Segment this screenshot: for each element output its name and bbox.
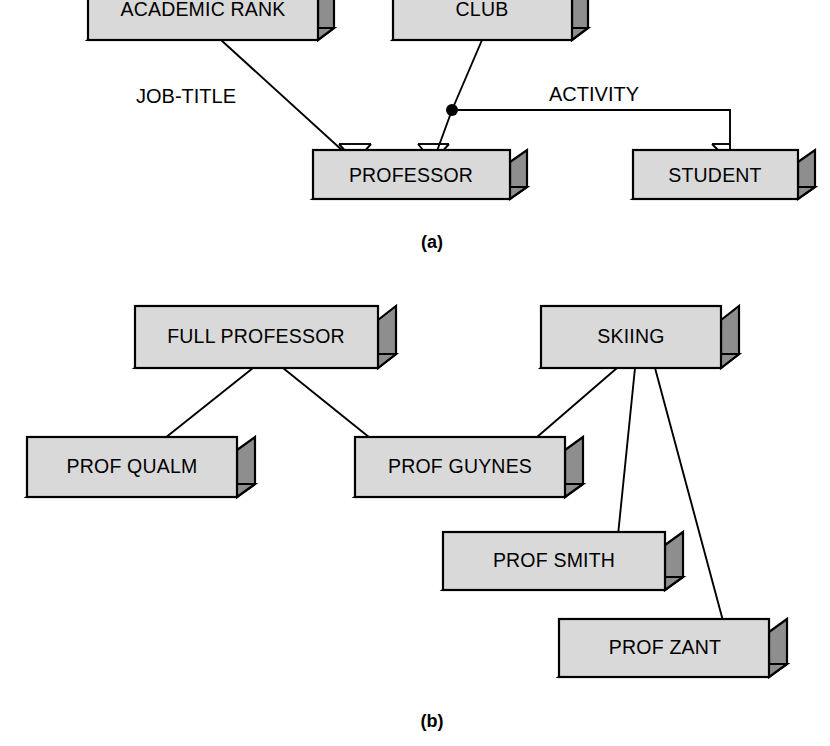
entity-box-prof-smith[interactable]: PROF SMITH xyxy=(443,532,683,590)
panel-a: JOB-TITLE ACTIVITY ACADEMIC RANK CLUB xyxy=(88,0,815,252)
prof-smith-label: PROF SMITH xyxy=(493,549,615,571)
link-skiing-to-prof-smith xyxy=(617,368,635,545)
entity-box-student[interactable]: STUDENT xyxy=(633,150,815,199)
activity-club-segment xyxy=(452,40,482,110)
prof-guynes-label: PROF GUYNES xyxy=(388,455,532,477)
academic-rank-label: ACADEMIC RANK xyxy=(120,0,285,20)
full-professor-label: FULL PROFESSOR xyxy=(167,325,345,347)
entity-box-skiing[interactable]: SKIING xyxy=(541,306,739,368)
entity-box-academic-rank[interactable]: ACADEMIC RANK xyxy=(88,0,334,40)
connector-skiing-prof-smith xyxy=(617,368,635,545)
entity-box-full-professor[interactable]: FULL PROFESSOR xyxy=(135,306,396,368)
panel-b: FULL PROFESSOR SKIING PROF QUALM xyxy=(27,306,787,731)
relationship-label-activity: ACTIVITY xyxy=(549,83,639,105)
activity-junction-dot xyxy=(446,104,458,116)
panel-b-caption: (b) xyxy=(421,711,444,731)
entity-box-prof-guynes[interactable]: PROF GUYNES xyxy=(355,437,583,497)
connector-job-title xyxy=(221,40,371,162)
entity-box-prof-zant[interactable]: PROF ZANT xyxy=(559,619,787,677)
link-skiing-to-prof-zant xyxy=(655,368,726,632)
skiing-label: SKIING xyxy=(597,325,664,347)
entity-box-professor[interactable]: PROFESSOR xyxy=(313,150,527,199)
figure-canvas: JOB-TITLE ACTIVITY ACADEMIC RANK CLUB xyxy=(0,0,830,746)
connector-skiing-prof-zant xyxy=(655,368,726,632)
prof-zant-label: PROF ZANT xyxy=(609,636,721,658)
entity-box-prof-qualm[interactable]: PROF QUALM xyxy=(27,437,255,497)
panel-a-caption: (a) xyxy=(421,232,443,252)
prof-qualm-label: PROF QUALM xyxy=(67,455,198,477)
professor-label: PROFESSOR xyxy=(349,164,473,186)
entity-relationship-diagram: JOB-TITLE ACTIVITY ACADEMIC RANK CLUB xyxy=(0,0,830,746)
student-label: STUDENT xyxy=(668,164,761,186)
club-label: CLUB xyxy=(456,0,509,20)
job-title-line xyxy=(221,40,355,162)
entity-box-club[interactable]: CLUB xyxy=(393,0,588,40)
relationship-label-job-title: JOB-TITLE xyxy=(136,85,236,107)
